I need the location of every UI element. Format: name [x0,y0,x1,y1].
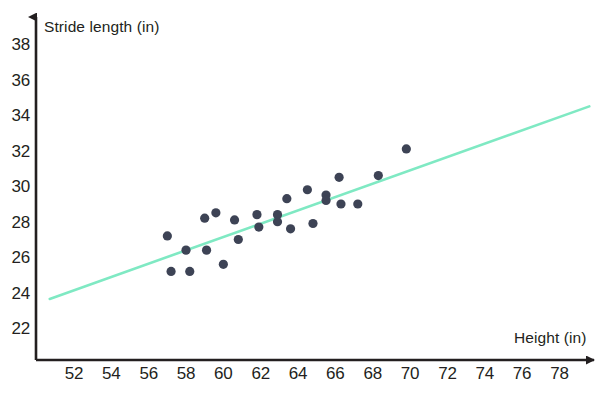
y-tick-label: 26 [2,248,30,268]
data-point [353,199,362,208]
x-tick-label: 70 [395,364,425,384]
x-tick-label: 54 [96,364,126,384]
x-tick-label: 66 [320,364,350,384]
y-tick-label: 28 [2,213,30,233]
data-point [254,222,263,231]
data-point [185,267,194,276]
data-point [303,185,312,194]
data-point [335,173,344,182]
data-point [211,208,220,217]
y-tick-label: 38 [2,35,30,55]
data-point [282,194,291,203]
data-point [402,144,411,153]
data-point [230,215,239,224]
data-point [308,219,317,228]
trend-line [50,106,590,299]
data-point [321,196,330,205]
x-tick-label: 64 [283,364,313,384]
x-tick-label: 62 [246,364,276,384]
x-tick-label: 56 [134,364,164,384]
data-points [163,144,411,276]
y-axis-title: Stride length (in) [44,18,160,36]
x-tick-label: 60 [208,364,238,384]
y-tick-label: 36 [2,71,30,91]
data-point [163,231,172,240]
data-point [202,246,211,255]
axes [36,17,594,360]
y-tick-label: 24 [2,284,30,304]
data-point [219,260,228,269]
y-tick-label: 22 [2,319,30,339]
data-point [200,214,209,223]
data-point [286,224,295,233]
x-tick-label: 72 [432,364,462,384]
x-tick-label: 58 [171,364,201,384]
x-tick-label: 68 [358,364,388,384]
data-point [252,210,261,219]
y-tick-label: 32 [2,142,30,162]
x-tick-label: 76 [507,364,537,384]
data-point [181,246,190,255]
x-tick-label: 78 [544,364,574,384]
data-point [166,267,175,276]
scatter-plot-figure: Stride length (in) Height (in) 222426283… [0,0,610,393]
data-point [234,235,243,244]
y-tick-label: 30 [2,177,30,197]
trend-line-segment [50,106,590,299]
data-point [336,199,345,208]
y-tick-label: 34 [2,106,30,126]
x-tick-label: 52 [59,364,89,384]
x-tick-label: 74 [470,364,500,384]
x-axis-title: Height (in) [514,329,587,347]
data-point [374,171,383,180]
data-point [273,217,282,226]
